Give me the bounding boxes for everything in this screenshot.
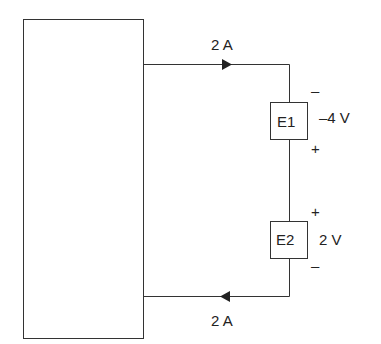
e2-voltage: 2 V — [319, 232, 342, 247]
e2-label: E2 — [276, 232, 294, 247]
e1-top-polarity: – — [311, 83, 319, 98]
network-box — [24, 20, 144, 339]
circuit-diagram — [0, 0, 381, 344]
top-wire — [143, 65, 290, 103]
e1-label: E1 — [277, 114, 295, 129]
e1-voltage: –4 V — [319, 110, 350, 125]
arrow-right-icon — [222, 59, 232, 70]
current-label-bottom: 2 A — [211, 313, 233, 328]
e2-top-polarity: + — [311, 204, 320, 219]
e1-bottom-polarity: + — [311, 141, 320, 156]
arrow-left-icon — [220, 291, 230, 302]
e2-bottom-polarity: – — [311, 258, 319, 273]
current-label-top: 2 A — [211, 37, 233, 52]
bottom-wire — [143, 258, 290, 297]
